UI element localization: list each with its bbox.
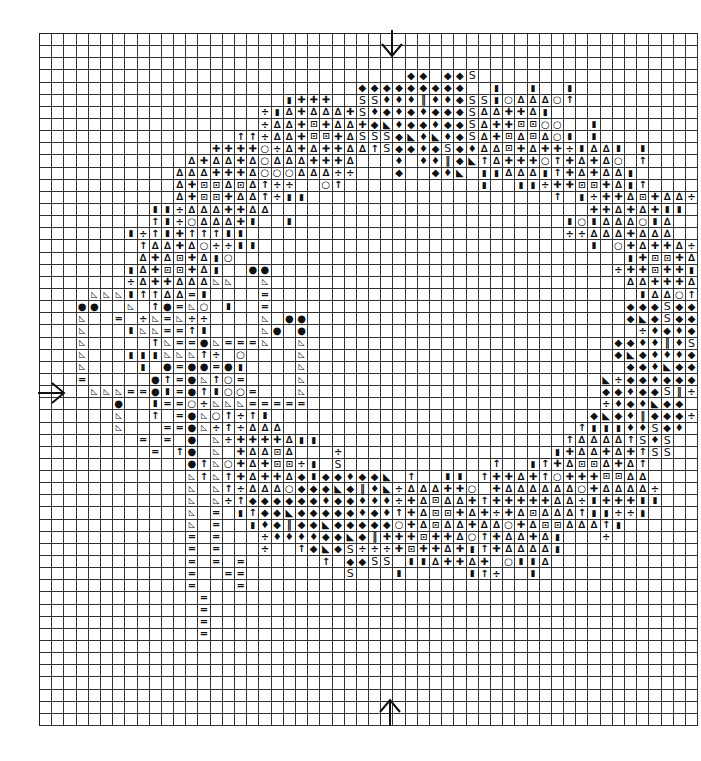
stitch-symbol-A: ↑ [576, 423, 588, 435]
stitch-symbol-P: ✚ [454, 507, 466, 519]
grid-cell [40, 192, 52, 204]
grid-cell [247, 617, 259, 629]
stitch-symbol-E: = [272, 398, 284, 410]
grid-cell [491, 447, 503, 459]
grid-cell [552, 641, 564, 653]
grid-cell [296, 180, 308, 192]
grid-cell [528, 677, 540, 689]
grid-cell [162, 168, 174, 180]
stitch-symbol-E: = [235, 556, 247, 568]
grid-cell [198, 653, 210, 665]
grid-cell [406, 605, 418, 617]
grid-cell [174, 507, 186, 519]
grid-cell [333, 568, 345, 580]
grid-cell [491, 677, 503, 689]
grid-cell [52, 580, 64, 592]
grid-cell [418, 289, 430, 301]
grid-cell [479, 192, 491, 204]
grid-cell [345, 665, 357, 677]
grid-cell [89, 46, 101, 58]
grid-cell [369, 592, 381, 604]
grid-cell [613, 592, 625, 604]
grid-cell [686, 131, 698, 143]
grid-cell [454, 58, 466, 70]
stitch-symbol-H: ‖ [674, 386, 686, 398]
stitch-symbol-T: ∆ [601, 483, 613, 495]
grid-cell [235, 677, 247, 689]
grid-cell [296, 410, 308, 422]
grid-cell [113, 180, 125, 192]
stitch-symbol-T: ∆ [552, 483, 564, 495]
stitch-symbol-P: ✚ [515, 107, 527, 119]
grid-cell [564, 423, 576, 435]
stitch-symbol-H: ‖ [284, 520, 296, 532]
grid-cell [162, 714, 174, 726]
stitch-symbol-D: ◆ [454, 119, 466, 131]
grid-cell [625, 617, 637, 629]
stitch-symbol-S: S [357, 95, 369, 107]
stitch-symbol-H: ‖ [442, 155, 454, 167]
grid-cell [467, 362, 479, 374]
grid-cell [125, 532, 137, 544]
grid-cell [381, 423, 393, 435]
stitch-symbol-D: ◆ [393, 168, 405, 180]
grid-cell [442, 216, 454, 228]
stitch-symbol-T: ∆ [186, 240, 198, 252]
grid-cell [637, 556, 649, 568]
grid-cell [113, 617, 125, 629]
grid-cell [174, 495, 186, 507]
stitch-symbol-T: ∆ [454, 532, 466, 544]
grid-cell [393, 253, 405, 265]
grid-cell [406, 277, 418, 289]
grid-cell [637, 702, 649, 714]
grid-cell [150, 617, 162, 629]
stitch-symbol-T: ∆ [576, 155, 588, 167]
grid-cell [259, 350, 271, 362]
grid-cell [113, 168, 125, 180]
grid-cell [662, 119, 674, 131]
grid-cell [649, 155, 661, 167]
stitch-symbol-P: ✚ [576, 471, 588, 483]
grid-cell [101, 580, 113, 592]
grid-cell [479, 301, 491, 313]
grid-cell [272, 228, 284, 240]
grid-cell [601, 580, 613, 592]
grid-cell [40, 568, 52, 580]
stitch-symbol-T: ∆ [345, 155, 357, 167]
stitch-symbol-D: ◆ [662, 325, 674, 337]
grid-cell [442, 34, 454, 46]
stitch-symbol-I: ▮ [162, 228, 174, 240]
grid-cell [357, 350, 369, 362]
stitch-symbol-D: ◆ [686, 325, 698, 337]
grid-cell [479, 641, 491, 653]
stitch-symbol-V: ÷ [296, 459, 308, 471]
grid-cell [162, 192, 174, 204]
grid-cell [674, 702, 686, 714]
stitch-symbol-T: ∆ [625, 277, 637, 289]
grid-cell [333, 289, 345, 301]
grid-cell [113, 605, 125, 617]
grid-cell [89, 119, 101, 131]
grid-cell [503, 325, 515, 337]
stitch-symbol-O: ○ [576, 483, 588, 495]
stitch-symbol-d: ♦ [418, 131, 430, 143]
stitch-symbol-R: ◣ [649, 398, 661, 410]
stitch-symbol-P: ✚ [625, 495, 637, 507]
grid-cell [272, 386, 284, 398]
stitch-symbol-L: ◺ [150, 325, 162, 337]
grid-cell [64, 338, 76, 350]
grid-cell [162, 83, 174, 95]
grid-cell [601, 677, 613, 689]
grid-cell [235, 46, 247, 58]
grid-cell [662, 495, 674, 507]
stitch-symbol-L: ◺ [186, 507, 198, 519]
grid-cell [601, 46, 613, 58]
grid-cell [491, 362, 503, 374]
stitch-symbol-T: ∆ [540, 483, 552, 495]
grid-cell [479, 313, 491, 325]
grid-cell [491, 46, 503, 58]
grid-cell [442, 362, 454, 374]
stitch-symbol-V: ÷ [686, 240, 698, 252]
grid-cell [625, 325, 637, 337]
stitch-symbol-P: ✚ [491, 483, 503, 495]
